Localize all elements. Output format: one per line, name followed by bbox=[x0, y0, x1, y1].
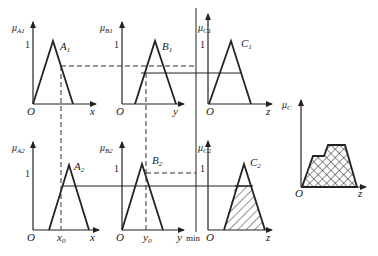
axis-label-c: μC bbox=[281, 99, 292, 112]
panel-b1: μB1 1 B1 O y bbox=[99, 22, 184, 117]
panel-b2: μB2 1 B2 O y0 y min bbox=[99, 142, 201, 245]
tick-one: 1 bbox=[114, 39, 119, 50]
panel-c2: μC2 1 C2 O z bbox=[197, 141, 272, 243]
panel-c1: μC1 1 C1 O z bbox=[197, 14, 272, 117]
origin-label: O bbox=[27, 105, 35, 117]
tick-one: 1 bbox=[114, 163, 119, 174]
axis-label-c1: μC1 bbox=[197, 22, 211, 35]
origin-label: O bbox=[206, 231, 214, 243]
panel-a1: μA1 1 A1 O x bbox=[11, 22, 96, 117]
set-label-b2: B2 bbox=[152, 154, 163, 168]
x-axis-label: z bbox=[265, 105, 271, 117]
x-axis-label: z bbox=[357, 187, 363, 199]
tick-one: 1 bbox=[25, 39, 30, 50]
origin-label: O bbox=[206, 105, 214, 117]
axis-label-a2: μA2 bbox=[11, 142, 25, 155]
set-label-c2: C2 bbox=[250, 156, 261, 170]
origin-label: O bbox=[295, 187, 303, 199]
input-label-y0: y0 bbox=[142, 231, 152, 245]
set-label-a1: A1 bbox=[59, 40, 70, 54]
tick-one: 1 bbox=[200, 163, 205, 174]
diagram-canvas: μA1 1 A1 O x μB1 1 B1 O y μC1 1 C1 O z μ… bbox=[0, 0, 378, 256]
axis-label-a1: μA1 bbox=[11, 22, 25, 35]
panel-aggregate: μC O z bbox=[281, 99, 366, 199]
fuzzy-inference-diagram: μA1 1 A1 O x μB1 1 B1 O y μC1 1 C1 O z μ… bbox=[0, 0, 378, 256]
membership-triangle-a2 bbox=[49, 165, 89, 230]
x-axis-label: x bbox=[89, 105, 95, 117]
x-axis-label: x bbox=[89, 231, 95, 243]
axis-label-b1: μB1 bbox=[99, 22, 113, 35]
x-axis-label: z bbox=[265, 231, 271, 243]
input-label-x0: x0 bbox=[56, 231, 66, 245]
tick-one: 1 bbox=[25, 168, 30, 179]
x-axis-label: y bbox=[172, 105, 178, 117]
min-operator-label: min bbox=[186, 233, 201, 243]
axis-label-c2: μC2 bbox=[197, 142, 212, 155]
origin-label: O bbox=[116, 231, 124, 243]
panel-a2: μA2 1 A2 O x0 x bbox=[11, 142, 99, 245]
origin-label: O bbox=[116, 105, 124, 117]
set-label-b1: B1 bbox=[162, 40, 172, 54]
set-label-a2: A2 bbox=[73, 160, 85, 174]
connector-lines bbox=[61, 8, 253, 232]
x-axis-label: y bbox=[176, 231, 182, 243]
axis-label-b2: μB2 bbox=[99, 142, 113, 155]
aggregated-output-area bbox=[302, 145, 357, 187]
tick-one: 1 bbox=[200, 39, 205, 50]
set-label-c1: C1 bbox=[241, 37, 252, 51]
membership-triangle-b2 bbox=[122, 164, 163, 230]
origin-label: O bbox=[27, 231, 35, 243]
